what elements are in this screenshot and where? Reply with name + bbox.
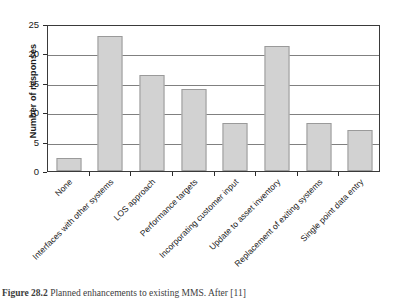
- figure-caption-number: Figure 28.2: [2, 288, 48, 298]
- figure-bar-chart: Number of responses 0510152025 NoneInter…: [0, 0, 394, 302]
- x-axis-label-group: NoneInterfaces with other systemsLOS app…: [0, 0, 394, 302]
- figure-caption: Figure 28.2 Planned enhancements to exis…: [2, 288, 394, 298]
- figure-caption-text: Planned enhancements to existing MMS. Af…: [50, 288, 246, 298]
